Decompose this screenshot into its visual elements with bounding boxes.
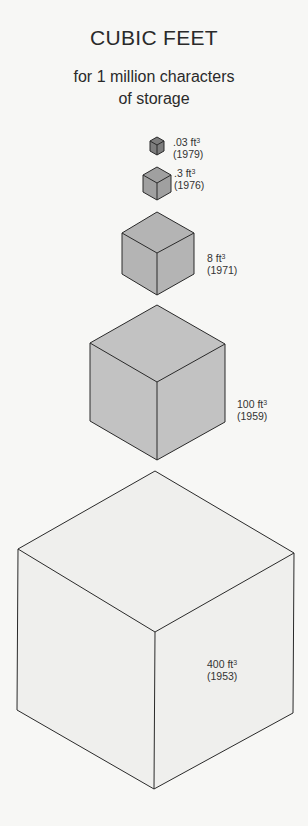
label-value: 8 ft (207, 252, 222, 264)
label-1979: .03 ft3 (1979) (173, 136, 203, 160)
label-superscript: 3 (222, 253, 226, 260)
label-year: (1959) (237, 410, 267, 422)
label-year: (1976) (174, 179, 204, 191)
label-value: .03 ft (173, 136, 196, 148)
label-value: .3 ft (174, 167, 192, 179)
label-value: 100 ft (237, 398, 263, 410)
cube-1971 (122, 212, 194, 295)
label-1976: .3 ft3 (1976) (174, 167, 204, 191)
label-1971: 8 ft3 (1971) (207, 252, 237, 276)
cube-1953 (17, 471, 294, 789)
label-1959: 100 ft3 (1959) (237, 398, 267, 422)
label-superscript: 3 (192, 168, 196, 175)
label-year: (1979) (173, 148, 203, 160)
label-superscript: 3 (196, 137, 200, 144)
label-year: (1971) (207, 264, 237, 276)
label-value: 400 ft (207, 658, 233, 670)
label-superscript: 3 (263, 399, 267, 406)
cube-1979 (150, 137, 164, 155)
label-1953: 400 ft3 (1953) (207, 658, 237, 682)
cube-1959 (90, 305, 225, 460)
label-year: (1953) (207, 670, 237, 682)
cube-1976 (143, 167, 171, 200)
label-superscript: 3 (233, 659, 237, 666)
